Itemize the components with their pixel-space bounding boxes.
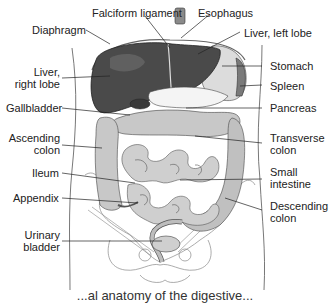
ascending-colon — [95, 117, 122, 210]
label-stomach: Stomach — [270, 60, 313, 72]
label-transverse-colon: Transverse colon — [270, 132, 325, 156]
small-intestine — [122, 145, 219, 226]
gallbladder — [130, 99, 150, 109]
body-outline-right — [258, 45, 264, 290]
body-outline-left — [70, 48, 76, 290]
label-urinary-bladder: Urinary bladder — [14, 229, 60, 253]
label-appendix: Appendix — [13, 192, 59, 204]
transverse-colon — [112, 110, 240, 137]
label-esophagus: Esophagus — [198, 7, 253, 19]
label-diaphragm: Diaphragm — [32, 24, 86, 36]
label-liver-left-lobe: Liver, left lobe — [244, 27, 312, 39]
label-descending-colon: Descending colon — [270, 200, 328, 224]
label-falciform-ligament: Falciform ligament — [92, 7, 182, 19]
spleen — [236, 58, 245, 96]
urinary-bladder — [152, 236, 180, 252]
label-ascending-colon: Ascending colon — [4, 132, 60, 156]
label-liver-right-lobe: Liver, right lobe — [14, 66, 60, 90]
figure-caption: ...al anatomy of the digestive... — [0, 288, 330, 303]
label-pancreas: Pancreas — [270, 102, 316, 114]
label-small-intestine: Small intestine — [270, 166, 311, 190]
label-spleen: Spleen — [270, 80, 304, 92]
label-gallbladder: Gallbladder — [6, 102, 62, 114]
label-ileum: Ileum — [32, 167, 59, 179]
